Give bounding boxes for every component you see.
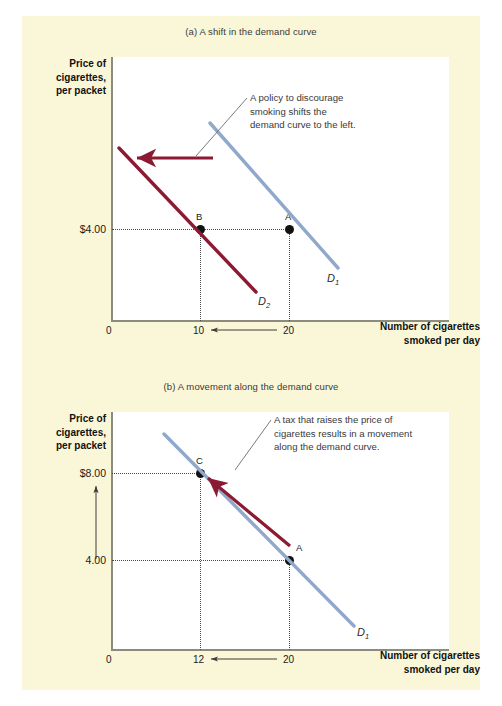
panel-a-y-axis-title-line-3: per packet <box>0 84 106 98</box>
panel-a-y-axis <box>111 57 113 322</box>
panel-b-x-axis-title-line-1: Number of cigarettes <box>300 649 480 663</box>
panel-b-curve-label-d1: D1 <box>357 626 369 641</box>
panel-a-origin-label: 0 <box>106 325 112 336</box>
panel-b-curve-label-d1-base: D <box>357 626 365 638</box>
panel-a-x-axis-title-line-2: smoked per day <box>300 334 480 348</box>
panel-b-point-a <box>285 556 294 565</box>
panel-b-annotation: A tax that raises the price of cigarette… <box>274 413 412 454</box>
panel-a-y-axis-title: Price of cigarettes, per packet <box>0 57 106 98</box>
panel-b-y-axis-title-line-2: cigarettes, <box>0 426 106 440</box>
panel-b-y-axis-title: Price of cigarettes, per packet <box>0 412 106 453</box>
panel-a-y-axis-title-line-2: cigarettes, <box>0 71 106 85</box>
panel-b-title: (b) A movement along the demand curve <box>0 381 502 392</box>
panel-b-point-label-a: A <box>296 542 302 553</box>
panel-b-y-axis-title-line-3: per packet <box>0 439 106 453</box>
panel-b-origin-label: 0 <box>106 654 112 665</box>
panel-b-x-axis-title-line-2: smoked per day <box>300 663 480 677</box>
panel-a-x-axis-title: Number of cigarettes smoked per day <box>300 320 480 347</box>
panel-b-point-label-c: C <box>196 455 203 466</box>
panel-a-quantity-guideline-10 <box>200 229 201 321</box>
panel-a-point-label-b: B <box>196 211 202 222</box>
panel-b-xtick-20: 20 <box>283 654 294 665</box>
panel-a-curve-label-d2-base: D <box>258 295 266 307</box>
panel-a-xtick-10: 10 <box>193 325 204 336</box>
panel-a-title: (a) A shift in the demand curve <box>0 26 502 37</box>
panel-a-quantity-guideline-20 <box>289 229 290 321</box>
panel-b-quantity-guideline-20 <box>289 560 290 650</box>
panel-a-y-axis-title-line-1: Price of <box>0 57 106 71</box>
panel-a-point-label-a: A <box>285 211 291 222</box>
panel-a-curve-label-d1-sub: 1 <box>335 278 339 287</box>
figure-container: (a) A shift in the demand curve Price of… <box>0 0 502 706</box>
panel-a-xtick-20: 20 <box>283 325 294 336</box>
panel-a-annotation-line-3: demand curve to the left. <box>250 118 356 132</box>
panel-a-x-axis-title-line-1: Number of cigarettes <box>300 320 480 334</box>
panel-a-point-b <box>196 225 205 234</box>
panel-a-curve-label-d2: D2 <box>258 295 270 310</box>
panel-b-price-tick-8: $8.00 <box>48 467 106 479</box>
panel-b-annotation-line-2: cigarettes results in a movement <box>274 427 412 441</box>
panel-b-xtick-12: 12 <box>193 654 204 665</box>
panel-b-price-guideline-8 <box>112 473 201 474</box>
panel-b-y-axis-title-line-1: Price of <box>0 412 106 426</box>
panel-a-annotation-line-1: A policy to discourage <box>250 91 356 105</box>
panel-b-price-tick-4: 4.00 <box>48 554 106 566</box>
panel-a-price-tick-4: $4.00 <box>48 223 106 235</box>
panel-a-annotation: A policy to discourage smoking shifts th… <box>250 91 356 132</box>
panel-b-point-c <box>196 469 205 478</box>
panel-a-point-a <box>285 225 294 234</box>
panel-b-annotation-line-1: A tax that raises the price of <box>274 413 412 427</box>
panel-a-curve-label-d1-base: D <box>327 272 335 284</box>
panel-b-curve-label-d1-sub: 1 <box>365 632 369 641</box>
panel-b-x-axis-title: Number of cigarettes smoked per day <box>300 649 480 676</box>
panel-b-y-axis <box>111 412 113 651</box>
panel-b-price-guideline-4 <box>112 560 290 561</box>
panel-b-annotation-line-3: along the demand curve. <box>274 440 412 454</box>
panel-a-curve-label-d2-sub: 2 <box>266 301 270 310</box>
panel-a-curve-label-d1: D1 <box>327 272 339 287</box>
panel-b-quantity-guideline-12 <box>200 473 201 650</box>
panel-a-annotation-line-2: smoking shifts the <box>250 105 356 119</box>
